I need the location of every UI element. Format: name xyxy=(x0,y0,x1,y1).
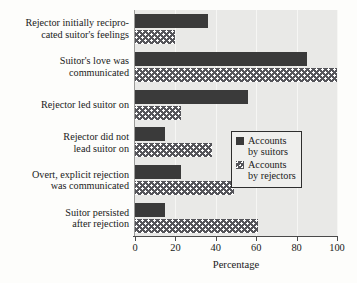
bar-suitors xyxy=(135,203,165,217)
gridline xyxy=(256,10,257,237)
gridline xyxy=(216,10,217,237)
bar-suitors xyxy=(135,127,165,141)
category-label: Overt, explicit rejection was communicat… xyxy=(0,169,129,192)
category-label: Suitor's love was communicated xyxy=(0,55,129,78)
legend-swatch-rejectors-icon xyxy=(236,161,244,169)
category-label: Suitor persisted after rejection xyxy=(0,207,129,230)
bar-suitors xyxy=(135,165,181,179)
legend-label-suitors: Accounts by suitors xyxy=(248,135,288,158)
bar-rejectors xyxy=(135,30,175,44)
bar-suitors xyxy=(135,52,307,66)
category-axis-labels: Rejector initially recipro- cated suitor… xyxy=(0,10,133,237)
x-axis-tick-label: 100 xyxy=(329,242,345,253)
bar-rejectors xyxy=(135,106,181,120)
bar-suitors xyxy=(135,90,248,104)
x-axis-tick-label: 60 xyxy=(251,242,261,253)
bar-chart: Rejector initially recipro- cated suitor… xyxy=(0,0,357,283)
legend-label-rejectors: Accounts by rejectors xyxy=(248,159,296,182)
x-axis-tick xyxy=(175,237,176,241)
gridline xyxy=(297,10,298,237)
chart-legend: Accounts by suitors Accounts by rejector… xyxy=(231,131,302,188)
x-axis-tick xyxy=(256,237,257,241)
gridline xyxy=(175,10,176,237)
x-axis-tick xyxy=(337,237,338,241)
bar-rejectors xyxy=(135,219,258,233)
bar-rejectors xyxy=(135,68,337,82)
x-axis-tick-label: 80 xyxy=(291,242,301,253)
y-axis-line xyxy=(134,10,135,237)
category-label: Rejector did not lead suitor on xyxy=(0,131,129,154)
bar-suitors xyxy=(135,14,208,28)
x-axis-tick-label: 40 xyxy=(211,242,221,253)
legend-item-suitors: Accounts by suitors xyxy=(236,135,296,158)
category-label: Rejector led suitor on xyxy=(0,99,129,111)
legend-swatch-suitors-icon xyxy=(236,137,244,145)
x-axis-line xyxy=(133,236,338,237)
gridline xyxy=(337,10,338,237)
bar-rejectors xyxy=(135,143,212,157)
x-axis-tick-label: 0 xyxy=(132,242,137,253)
x-axis-tick xyxy=(297,237,298,241)
x-axis-tick-label: 20 xyxy=(170,242,180,253)
category-label: Rejector initially recipro- cated suitor… xyxy=(0,17,129,40)
x-axis-tick xyxy=(135,237,136,241)
x-axis-title: Percentage xyxy=(135,259,337,270)
plot-area xyxy=(135,10,337,237)
x-axis-tick xyxy=(216,237,217,241)
legend-item-rejectors: Accounts by rejectors xyxy=(236,159,296,182)
bar-rejectors xyxy=(135,181,234,195)
